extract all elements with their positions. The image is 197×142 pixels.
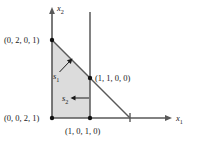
vertex-dot-top-left bbox=[50, 38, 54, 42]
feasible-region-figure: x2 x1 s1 s2 (0, 2, 0, 1) (1, 1, 0, 0) (0… bbox=[0, 0, 197, 142]
constraint-label-s2-sub: 2 bbox=[65, 98, 68, 105]
x-axis-label-sub: 1 bbox=[180, 118, 183, 125]
constraint-label-s1: s1 bbox=[53, 72, 59, 83]
y-axis-label: x2 bbox=[57, 4, 64, 15]
vertex-label-top-left: (0, 2, 0, 1) bbox=[4, 36, 39, 45]
constraint-label-s2: s2 bbox=[62, 94, 68, 105]
x-axis-arrowhead bbox=[165, 115, 172, 121]
vertex-label-bottom-right: (1, 0, 1, 0) bbox=[65, 127, 100, 136]
y-axis-label-sub: 2 bbox=[61, 8, 64, 15]
vertex-dot-interior-right bbox=[88, 76, 92, 80]
vertex-label-interior-right: (1, 1, 0, 0) bbox=[95, 74, 130, 83]
vertex-dot-origin bbox=[50, 116, 54, 120]
y-axis-arrowhead bbox=[49, 7, 55, 14]
vertex-dot-bottom-right bbox=[88, 116, 92, 120]
vertex-label-origin: (0, 0, 2, 1) bbox=[4, 114, 39, 123]
constraint-label-s1-sub: 1 bbox=[56, 76, 59, 83]
x-axis-label: x1 bbox=[176, 114, 183, 125]
